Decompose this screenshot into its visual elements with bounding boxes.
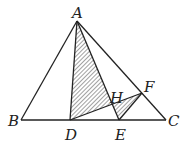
geometry-diagram: A B C D E F H (0, 0, 188, 144)
label-d: D (64, 126, 77, 144)
label-h: H (109, 89, 124, 107)
segment-ab (21, 21, 77, 120)
label-b: B (7, 112, 19, 130)
label-f: F (143, 78, 155, 96)
label-e: E (114, 126, 126, 144)
label-c: C (168, 112, 180, 130)
label-a: A (70, 4, 83, 22)
